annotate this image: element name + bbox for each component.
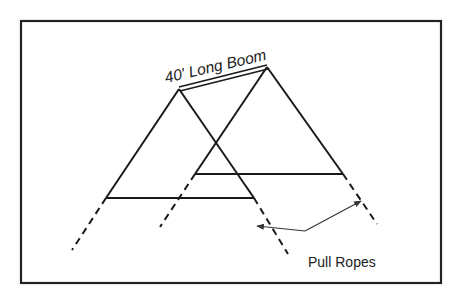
left-a-frame [106,89,254,198]
pull-rope-arrows [257,201,361,231]
dashed-leg-extensions [72,174,377,254]
pull-ropes-label: Pull Ropes [308,254,376,270]
boom-label: 40' Long Boom [163,46,268,86]
boom-diagram: 40' Long Boom Pull Ropes [0,0,466,298]
right-a-frame [195,67,343,174]
